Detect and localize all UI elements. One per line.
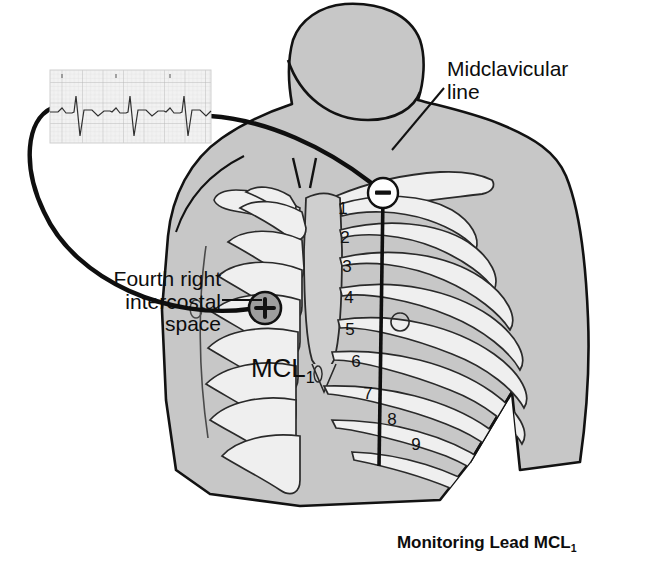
figure-canvas: 1 2 3 4 5 6 7 8 9 <box>0 0 663 563</box>
rib-label-5: 5 <box>345 320 354 339</box>
electrode-site-subscript: 1 <box>306 368 315 386</box>
rib-label-8: 8 <box>387 410 396 429</box>
rib-label-3: 3 <box>342 257 351 276</box>
rib-label-4: 4 <box>344 288 353 307</box>
rib-label-9: 9 <box>411 435 420 454</box>
figure-caption: Monitoring Lead MCL1 <box>378 516 577 563</box>
rib-label-7: 7 <box>363 384 372 403</box>
fourth-right-intercostal-space-label: Fourth right intercostal space <box>36 268 221 336</box>
positive-electrode <box>249 292 281 324</box>
figure-caption-text: Monitoring Lead MCL <box>397 533 571 552</box>
rib-label-6: 6 <box>351 352 360 371</box>
midclavicular-line-label: Midclavicular line <box>447 58 568 103</box>
rib-label-1: 1 <box>338 199 347 218</box>
rib-label-2: 2 <box>340 228 349 247</box>
negative-electrode <box>368 178 398 208</box>
figure-caption-subscript: 1 <box>571 543 577 555</box>
electrode-site-text: MCL <box>251 353 306 383</box>
electrode-site-label: MCL1 <box>222 326 315 415</box>
ecg-rhythm-strip <box>50 70 211 143</box>
